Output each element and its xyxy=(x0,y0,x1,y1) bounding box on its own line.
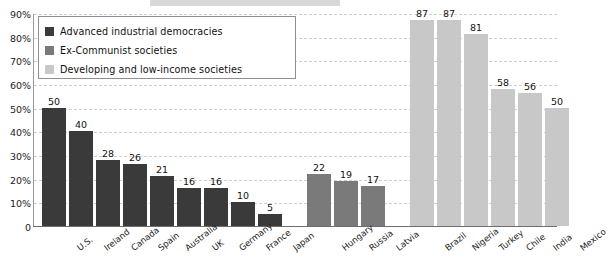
x-axis-category-label: Chile xyxy=(524,232,547,253)
bar-rect xyxy=(334,181,358,226)
legend-swatch-icon xyxy=(45,46,54,55)
legend-swatch-icon xyxy=(45,27,54,36)
y-axis-tick-label: 10% xyxy=(1,198,31,209)
legend-item: Advanced industrial democracies xyxy=(45,22,289,41)
y-axis-tick-label: 90% xyxy=(1,9,31,20)
y-axis-tick-label: 50% xyxy=(1,103,31,114)
x-axis-category-label: U.S. xyxy=(75,234,95,252)
legend-swatch-icon xyxy=(45,65,54,74)
x-axis-line xyxy=(33,226,557,227)
bar-value-label: 40 xyxy=(75,119,87,130)
y-axis-tick-label: 40% xyxy=(1,127,31,138)
bar-rect xyxy=(69,131,93,226)
bar: 50 xyxy=(545,108,569,226)
bar: 28 xyxy=(96,160,120,226)
bar-rect xyxy=(231,202,255,226)
bar-value-label: 21 xyxy=(156,164,168,175)
y-axis-tick-label: 20% xyxy=(1,174,31,185)
bar: 10 xyxy=(231,202,255,226)
bar: 40 xyxy=(69,131,93,226)
x-axis-category-label: Latvia xyxy=(394,229,421,253)
bar: 58 xyxy=(491,89,515,226)
cropped-title-strip xyxy=(150,0,340,6)
bar: 50 xyxy=(42,108,66,226)
bar-value-label: 26 xyxy=(129,152,141,163)
legend-label: Developing and low-income societies xyxy=(60,64,242,75)
bar-value-label: 10 xyxy=(237,190,249,201)
bar-value-label: 81 xyxy=(470,22,482,33)
y-axis-tick-label: 80% xyxy=(1,32,31,43)
y-axis-tick-label: 60% xyxy=(1,80,31,91)
bar-rect xyxy=(361,186,385,226)
bar-value-label: 87 xyxy=(416,8,428,19)
legend-item: Developing and low-income societies xyxy=(45,60,289,79)
legend: Advanced industrial democraciesEx-Commun… xyxy=(38,16,296,79)
x-axis-category-label: Brazil xyxy=(443,230,468,253)
bar-rect xyxy=(150,176,174,226)
bar-rect xyxy=(518,93,542,226)
bar-rect xyxy=(545,108,569,226)
bar-value-label: 50 xyxy=(48,96,60,107)
bar: 16 xyxy=(177,188,201,226)
bar: 26 xyxy=(123,164,147,226)
bar-value-label: 5 xyxy=(267,202,273,213)
x-axis-category-label: Turkey xyxy=(497,228,525,253)
bar-rect xyxy=(410,20,434,226)
legend-item: Ex-Communist societies xyxy=(45,41,289,60)
legend-label: Advanced industrial democracies xyxy=(60,26,223,37)
x-axis-category-label: Canada xyxy=(129,225,161,253)
y-axis-tick-label: 70% xyxy=(1,56,31,67)
bar-rect xyxy=(96,160,120,226)
bar: 87 xyxy=(410,20,434,226)
bar-rect xyxy=(204,188,228,226)
bar-rect xyxy=(491,89,515,226)
bar: 19 xyxy=(334,181,358,226)
bar-rect xyxy=(177,188,201,226)
bar-value-label: 50 xyxy=(551,96,563,107)
bar: 16 xyxy=(204,188,228,226)
x-axis-category-label: Japan xyxy=(291,230,316,253)
x-axis-category-label: UK xyxy=(210,238,226,253)
bar: 21 xyxy=(150,176,174,226)
legend-label: Ex-Communist societies xyxy=(60,45,177,56)
x-axis-category-label: Ireland xyxy=(102,227,132,253)
bar: 81 xyxy=(464,34,488,226)
bar: 56 xyxy=(518,93,542,226)
bar-value-label: 58 xyxy=(497,77,509,88)
x-axis-category-label: Mexico xyxy=(578,227,608,253)
bar-value-label: 28 xyxy=(102,148,114,159)
bar: 17 xyxy=(361,186,385,226)
x-axis-category-label: India xyxy=(551,232,574,253)
bar: 87 xyxy=(437,20,461,226)
bar-value-label: 17 xyxy=(367,174,379,185)
bar-value-label: 19 xyxy=(340,169,352,180)
bar-rect xyxy=(437,20,461,226)
x-axis-category-label: Nigeria xyxy=(470,226,500,253)
bar-value-label: 16 xyxy=(210,176,222,187)
bar-rect xyxy=(42,108,66,226)
bar-rect xyxy=(307,174,331,226)
bar-rect xyxy=(464,34,488,226)
bar-rect xyxy=(123,164,147,226)
y-axis-labels: 90%80%70%60%50%40%30%20%10%0 xyxy=(0,14,31,227)
bar-value-label: 22 xyxy=(313,162,325,173)
bar-value-label: 16 xyxy=(183,176,195,187)
y-axis-tick-label: 30% xyxy=(1,151,31,162)
bar-value-label: 56 xyxy=(524,81,536,92)
bar: 22 xyxy=(307,174,331,226)
y-axis-tick-label: 0 xyxy=(1,222,31,233)
bar-value-label: 87 xyxy=(443,8,455,19)
